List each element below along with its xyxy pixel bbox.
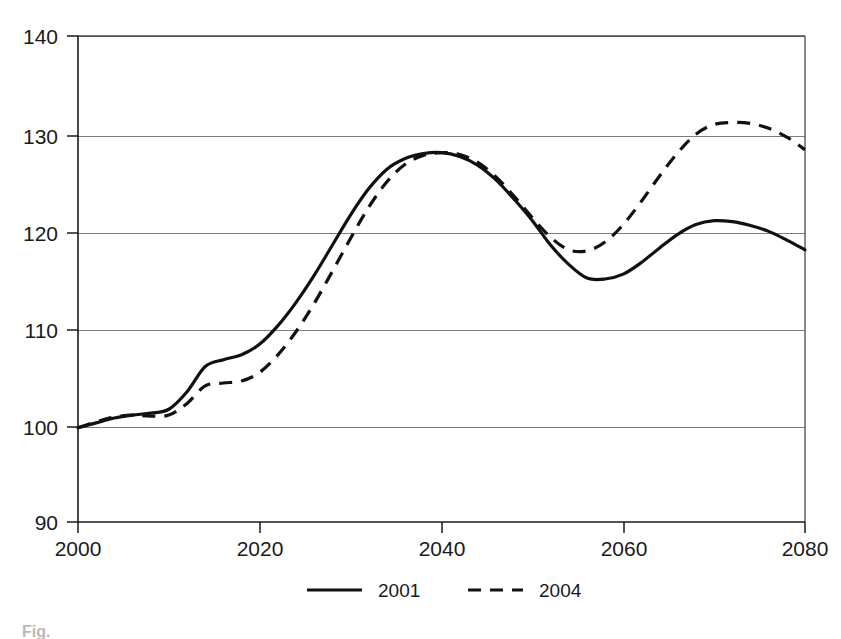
legend-label-2001: 2001 [378,580,420,601]
y-axis-labels: 140 130 120 110 100 90 [23,25,58,534]
plot-area-background [78,36,805,522]
x-tick-label-2020: 2020 [237,537,284,560]
y-tick-label-100: 100 [23,416,58,439]
x-tick-label-2060: 2060 [601,537,648,560]
y-tick-label-120: 120 [23,222,58,245]
legend-label-2004: 2004 [539,580,582,601]
x-tick-label-2040: 2040 [419,537,466,560]
y-tick-label-130: 130 [23,125,58,148]
y-axis-tickmarks [67,36,78,522]
x-axis-tickmarks [78,522,805,533]
y-tick-label-110: 110 [25,319,58,342]
figure-caption: Fig. [22,623,50,639]
x-tick-label-2080: 2080 [782,537,829,560]
figure-container: 140 130 120 110 100 90 2000 2020 2040 20… [0,0,841,639]
y-tick-label-90: 90 [35,511,58,534]
y-tick-label-140: 140 [23,25,58,48]
x-tick-label-2000: 2000 [55,537,102,560]
x-axis-labels: 2000 2020 2040 2060 2080 [55,537,829,560]
line-chart: 140 130 120 110 100 90 2000 2020 2040 20… [0,0,841,639]
chart-legend: 2001 2004 [307,580,582,601]
